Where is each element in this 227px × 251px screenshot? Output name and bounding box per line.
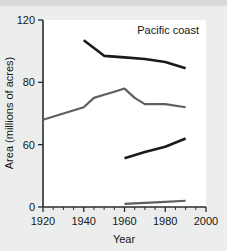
line-chart: 19201940196019802000 06080120 Pacific co… (0, 0, 227, 251)
x-axis-title: Year (113, 233, 136, 245)
x-tick-label: 1960 (112, 215, 136, 227)
chart-figure: 19201940196019802000 06080120 Pacific co… (0, 0, 227, 251)
y-tick-label: 120 (17, 14, 35, 26)
plot-area-background (43, 20, 206, 207)
x-tick-label: 1940 (72, 215, 96, 227)
y-axis-tick-labels: 06080120 (17, 14, 35, 213)
y-tick-label: 60 (23, 139, 35, 151)
y-axis-title: Area (millions of acres) (3, 57, 15, 169)
chart-annotation: Pacific coast (137, 24, 199, 36)
top-edge-strip (0, 0, 227, 6)
x-tick-label: 1920 (31, 215, 55, 227)
y-tick-label: 80 (23, 76, 35, 88)
y-tick-label: 0 (29, 201, 35, 213)
x-axis-tick-labels: 19201940196019802000 (31, 215, 218, 227)
x-tick-label: 2000 (194, 215, 218, 227)
x-tick-label: 1980 (153, 215, 177, 227)
